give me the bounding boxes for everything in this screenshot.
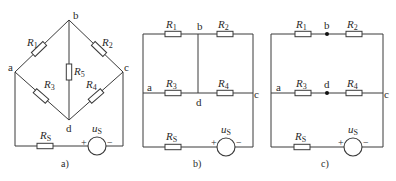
label-r4: R4 (217, 77, 229, 91)
node-dot-b (325, 32, 329, 36)
panel-c: b a c d R1 R2 R3 R4 RS uS + − c) (271, 18, 389, 170)
resistor-r4 (217, 90, 233, 95)
node-label-c: c (254, 88, 259, 100)
caption-a: a) (61, 158, 69, 170)
panel-b: b a c d R1 R2 R3 R4 RS uS + − b) (143, 18, 259, 170)
label-r3: R3 (295, 77, 307, 91)
label-rs: RS (165, 130, 177, 144)
label-r3: R3 (165, 77, 177, 91)
voltage-source-us (344, 138, 362, 156)
node-dot-d (325, 91, 329, 95)
source-plus: + (338, 137, 344, 148)
source-minus: − (236, 137, 242, 148)
resistor-r1 (165, 31, 181, 36)
resistor-rs (37, 143, 53, 148)
label-r1: R1 (165, 18, 177, 32)
resistor-r1 (295, 31, 311, 36)
voltage-source-us (88, 137, 106, 155)
source-plus: + (81, 137, 87, 148)
resistor-r3 (295, 90, 311, 95)
resistor-rs (165, 144, 181, 149)
voltage-source-us (217, 138, 235, 156)
label-us: uS (348, 123, 358, 137)
node-label-a: a (276, 81, 281, 93)
label-r5: R5 (73, 65, 85, 79)
resistor-r3 (165, 90, 181, 95)
node-label-a: a (8, 61, 13, 73)
caption-c: c) (321, 158, 329, 170)
label-r2: R2 (217, 18, 229, 32)
label-r1: R1 (26, 36, 38, 50)
node-label-c: c (124, 61, 129, 73)
resistor-r4 (346, 90, 362, 95)
source-minus: − (363, 137, 369, 148)
label-r2: R2 (101, 36, 113, 50)
label-r4: R4 (85, 78, 97, 92)
resistor-r2 (217, 31, 233, 36)
node-label-c: c (384, 88, 389, 100)
node-label-b: b (197, 20, 203, 32)
resistor-r5 (66, 64, 71, 80)
circuit-figure: b a c d R1 R2 R3 R4 R5 RS uS + − a) b a … (0, 0, 396, 181)
panel-a: b a c d R1 R2 R3 R4 R5 RS uS + − a) (8, 9, 129, 170)
label-us: uS (92, 122, 102, 136)
node-label-d: d (66, 122, 72, 134)
label-rs: RS (294, 130, 306, 144)
resistor-rs (294, 144, 310, 149)
label-r3: R3 (43, 78, 55, 92)
label-r1: R1 (295, 18, 307, 32)
label-r2: R2 (346, 18, 358, 32)
label-r4: R4 (346, 77, 358, 91)
label-rs: RS (39, 129, 51, 143)
node-label-b: b (73, 9, 79, 21)
source-minus: − (107, 137, 113, 148)
resistor-r2 (346, 31, 362, 36)
node-label-a: a (147, 81, 152, 93)
node-label-d: d (324, 78, 330, 90)
node-label-b: b (324, 19, 330, 31)
source-plus: + (211, 137, 217, 148)
resistor-r3 (33, 89, 49, 104)
caption-b: b) (193, 158, 201, 170)
label-us: uS (221, 123, 231, 137)
node-label-d: d (196, 96, 202, 108)
